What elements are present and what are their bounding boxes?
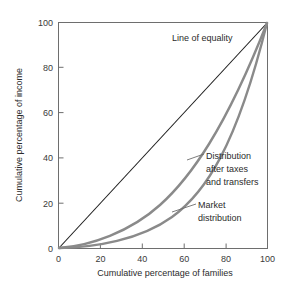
lorenz-curve-chart: 0 20 40 60 80 100 0 20 40 60 80 100 Cumu… [0, 0, 290, 289]
lorenz-curve-figure: 0 20 40 60 80 100 0 20 40 60 80 100 Cumu… [0, 0, 290, 289]
after-taxes-label-line-2: after taxes [206, 164, 249, 174]
x-tick-label-40: 40 [137, 254, 147, 264]
y-tick-label-0: 0 [48, 244, 53, 254]
x-tick-label-20: 20 [95, 254, 105, 264]
y-tick-label-80: 80 [43, 63, 53, 73]
annotation-line-of-equality: Line of equality [172, 33, 233, 43]
line-of-equality-label: Line of equality [172, 33, 233, 43]
y-tick-label-60: 60 [43, 108, 53, 118]
x-tick-label-100: 100 [260, 254, 275, 264]
y-tick-label-20: 20 [43, 199, 53, 209]
y-tick-label-40: 40 [43, 153, 53, 163]
y-tick-label-100: 100 [38, 18, 53, 28]
x-axis-title: Cumulative percentage of families [97, 268, 233, 278]
x-tick-label-0: 0 [56, 254, 61, 264]
x-tick-label-60: 60 [179, 254, 189, 264]
x-tick-label-80: 80 [221, 254, 231, 264]
after-taxes-label-line-1: Distribution [206, 151, 251, 161]
market-distribution-label-line-2: distribution [198, 213, 242, 223]
after-taxes-label-line-3: and transfers [206, 177, 259, 187]
market-distribution-label-line-1: Market [198, 200, 226, 210]
chart-background [0, 0, 290, 289]
y-axis-title: Cumulative percentage of income [14, 68, 24, 202]
